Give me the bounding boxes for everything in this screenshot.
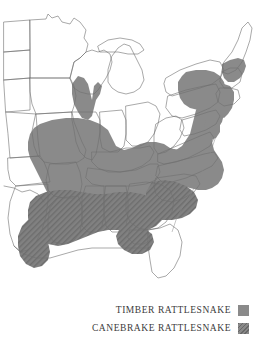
- canebrake-swatch: [238, 323, 249, 334]
- legend-label-canebrake: CANEBRAKE RATTLESNAKE: [92, 323, 231, 334]
- legend-item-timber: TIMBER RATTLESNAKE: [0, 303, 249, 318]
- timber-swatch: [238, 305, 249, 316]
- range-map-figure: [0, 0, 272, 300]
- figure-page: TIMBER RATTLESNAKE CANEBRAKE RATTLESNAKE: [0, 0, 272, 341]
- map-legend: TIMBER RATTLESNAKE CANEBRAKE RATTLESNAKE: [0, 300, 272, 341]
- legend-label-timber: TIMBER RATTLESNAKE: [116, 305, 231, 316]
- map-svg: [0, 0, 272, 300]
- legend-item-canebrake: CANEBRAKE RATTLESNAKE: [0, 321, 249, 336]
